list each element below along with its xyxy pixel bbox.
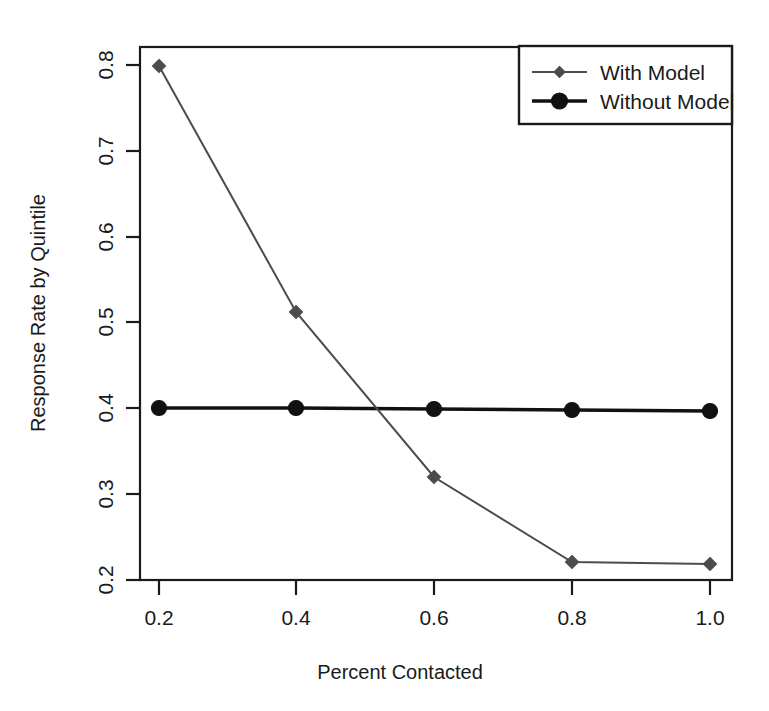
data-point-marker [565, 403, 580, 418]
data-point-marker [704, 558, 717, 571]
data-point-marker [289, 401, 304, 416]
y-tick-label: 0.8 [94, 50, 117, 79]
y-tick-label: 0.3 [94, 479, 117, 508]
x-tick-label: 0.8 [557, 606, 586, 629]
plot-frame [140, 47, 732, 580]
series-without-model [152, 401, 718, 419]
y-tick-label: 0.5 [94, 307, 117, 336]
legend-item-label: Without Model [600, 90, 734, 113]
series-with-model [153, 60, 717, 571]
line-chart-canvas: 0.2 0.3 0.4 0.5 0.6 0.7 0.8 0.2 0.4 0.6 … [0, 0, 769, 711]
y-axis-tick-labels: 0.2 0.3 0.4 0.5 0.6 0.7 0.8 [94, 50, 117, 594]
x-axis-title: Percent Contacted [317, 661, 483, 683]
y-axis-ticks [126, 65, 140, 580]
with-model-line [159, 66, 710, 564]
data-point-marker [152, 401, 167, 416]
y-axis-title: Response Rate by Quintile [27, 194, 49, 432]
x-tick-label: 0.4 [281, 606, 311, 629]
x-tick-label: 0.2 [144, 606, 173, 629]
y-tick-label: 0.2 [94, 565, 117, 594]
x-axis-tick-labels: 0.2 0.4 0.6 0.8 1.0 [144, 606, 724, 629]
data-point-marker [566, 556, 579, 569]
chart-legend: With Model Without Model [519, 46, 734, 124]
data-point-marker [153, 60, 166, 73]
data-point-marker [427, 402, 442, 417]
x-axis-ticks [159, 580, 710, 595]
legend-circle-icon [552, 93, 568, 109]
y-tick-label: 0.6 [94, 222, 117, 251]
y-tick-label: 0.7 [94, 136, 117, 165]
data-point-marker [703, 404, 718, 419]
x-tick-label: 1.0 [695, 606, 724, 629]
legend-item-label: With Model [600, 61, 705, 84]
y-tick-label: 0.4 [94, 393, 117, 423]
chart-figure: 0.2 0.3 0.4 0.5 0.6 0.7 0.8 0.2 0.4 0.6 … [0, 0, 769, 711]
x-tick-label: 0.6 [419, 606, 448, 629]
